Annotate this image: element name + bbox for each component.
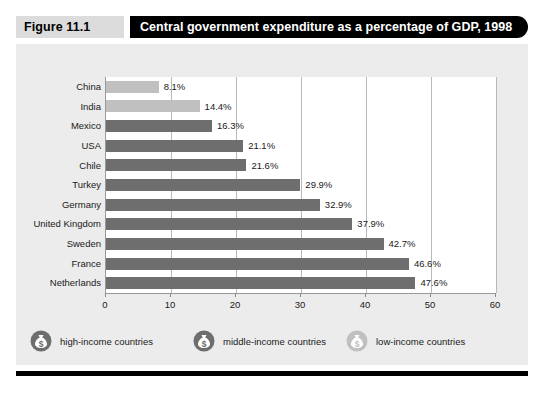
money-bag-icon: $ (346, 330, 368, 352)
category-label: China (76, 77, 106, 97)
bar (106, 277, 415, 289)
x-axis-tick (105, 293, 106, 297)
category-label: United Kingdom (33, 214, 106, 234)
svg-text:$: $ (39, 339, 44, 349)
svg-text:$: $ (355, 339, 360, 349)
figure-title: Central government expenditure as a perc… (130, 16, 528, 38)
bar-value-label: 46.6% (409, 254, 441, 274)
x-axis-tick-label: 60 (490, 299, 501, 310)
bar-value-label: 37.9% (352, 214, 384, 234)
bar (106, 120, 212, 132)
footer-rule (16, 371, 528, 376)
bar (106, 140, 243, 152)
bar-value-label: 29.9% (300, 175, 332, 195)
figure-container: Figure 11.1 Central government expenditu… (0, 0, 542, 393)
bar-value-label: 21.6% (246, 156, 278, 176)
bar-value-label: 14.4% (200, 97, 232, 117)
bar-row: Chile21.6% (106, 156, 496, 176)
x-axis-tick-label: 40 (360, 299, 371, 310)
x-axis-tick-label: 50 (425, 299, 436, 310)
bar-value-label: 47.6% (415, 273, 447, 293)
legend-label: high-income countries (60, 336, 153, 347)
x-axis-tick-label: 0 (102, 299, 107, 310)
x-axis-tick-label: 30 (295, 299, 306, 310)
x-axis-tick (235, 293, 236, 297)
chart-legend: $high-income countries$middle-income cou… (30, 327, 520, 355)
legend-item: $low-income countries (346, 327, 465, 355)
bar-value-label: 16.3% (212, 116, 244, 136)
bar-value-label: 42.7% (384, 234, 416, 254)
bar-value-label: 8.1% (159, 77, 186, 97)
category-label: France (71, 254, 106, 274)
category-label: Sweden (67, 234, 106, 254)
category-label: Netherlands (50, 273, 106, 293)
x-axis-tick-label: 10 (165, 299, 176, 310)
bar (106, 159, 246, 171)
bar-value-label: 21.1% (243, 136, 275, 156)
legend-label: low-income countries (376, 336, 465, 347)
bar-row: France46.6% (106, 254, 496, 274)
bar (106, 199, 320, 211)
x-axis-tick (495, 293, 496, 297)
x-axis: 0102030405060 (105, 293, 496, 317)
figure-number: Figure 11.1 (16, 16, 124, 38)
bar-row: Mexico16.3% (106, 116, 496, 136)
legend-label: middle-income countries (223, 336, 326, 347)
bar-row: USA21.1% (106, 136, 496, 156)
bar-value-label: 32.9% (320, 195, 352, 215)
bar-row: Germany32.9% (106, 195, 496, 215)
bar (106, 179, 300, 191)
bar (106, 218, 352, 230)
x-axis-tick (170, 293, 171, 297)
x-axis-tick (300, 293, 301, 297)
bar (106, 81, 159, 93)
bar-row: India14.4% (106, 97, 496, 117)
bar (106, 238, 384, 250)
x-axis-tick (430, 293, 431, 297)
figure-header: Figure 11.1 Central government expenditu… (16, 16, 528, 38)
legend-item: $high-income countries (30, 327, 153, 355)
legend-item: $middle-income countries (193, 327, 326, 355)
bar-row: Turkey29.9% (106, 175, 496, 195)
chart-card: China8.1%India14.4%Mexico16.3%USA21.1%Ch… (16, 44, 528, 365)
bar-row: China8.1% (106, 77, 496, 97)
plot-area: China8.1%India14.4%Mexico16.3%USA21.1%Ch… (105, 77, 496, 293)
bar-row: Netherlands47.6% (106, 273, 496, 293)
bar-row: Sweden42.7% (106, 234, 496, 254)
svg-text:$: $ (202, 339, 207, 349)
money-bag-icon: $ (193, 330, 215, 352)
plot-right-edge (496, 77, 497, 293)
bar (106, 100, 200, 112)
category-label: Germany (62, 195, 106, 215)
category-label: Mexico (71, 116, 106, 136)
x-axis-tick-label: 20 (230, 299, 241, 310)
category-label: India (80, 97, 106, 117)
category-label: USA (81, 136, 106, 156)
x-axis-tick (365, 293, 366, 297)
bar (106, 258, 409, 270)
category-label: Chile (79, 156, 106, 176)
bar-rows: China8.1%India14.4%Mexico16.3%USA21.1%Ch… (106, 77, 496, 293)
category-label: Turkey (72, 175, 106, 195)
money-bag-icon: $ (30, 330, 52, 352)
bar-row: United Kingdom37.9% (106, 214, 496, 234)
